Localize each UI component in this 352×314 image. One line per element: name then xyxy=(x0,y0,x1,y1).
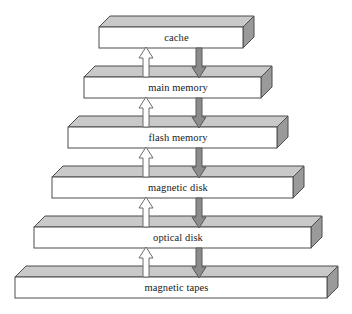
hierarchy-level-flash-memory[interactable]: flash memory xyxy=(67,115,289,149)
hierarchy-level-magnetic-disk[interactable]: magnetic disk xyxy=(51,165,305,199)
slab-shape-magnetic-disk xyxy=(51,165,305,199)
hierarchy-level-cache[interactable]: cache xyxy=(98,15,255,49)
slab-shape-cache xyxy=(98,15,255,49)
slab-shape-optical-disk xyxy=(33,215,323,249)
hierarchy-level-optical-disk[interactable]: optical disk xyxy=(33,215,323,249)
slab-shape-magnetic-tapes xyxy=(14,265,339,299)
slab-shape-main-memory xyxy=(83,65,273,99)
hierarchy-level-main-memory[interactable]: main memory xyxy=(83,65,273,99)
hierarchy-level-magnetic-tapes[interactable]: magnetic tapes xyxy=(14,265,339,299)
memory-hierarchy-diagram: cache main memory flash memory magnetic … xyxy=(0,0,352,314)
slab-shape-flash-memory xyxy=(67,115,289,149)
